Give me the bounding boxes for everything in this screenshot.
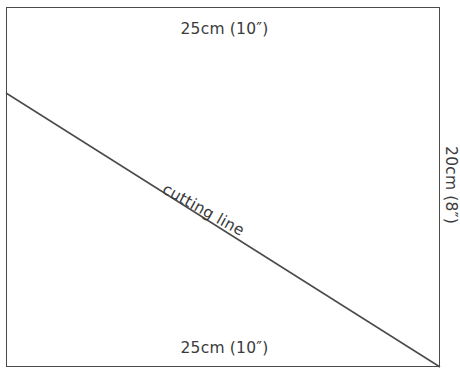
fabric-rectangle-outline [6,7,440,367]
dimension-label-right: 20cm (8″) [442,146,460,224]
dimension-label-top: 25cm (10″) [0,20,449,38]
dimension-label-bottom: 25cm (10″) [0,339,449,357]
